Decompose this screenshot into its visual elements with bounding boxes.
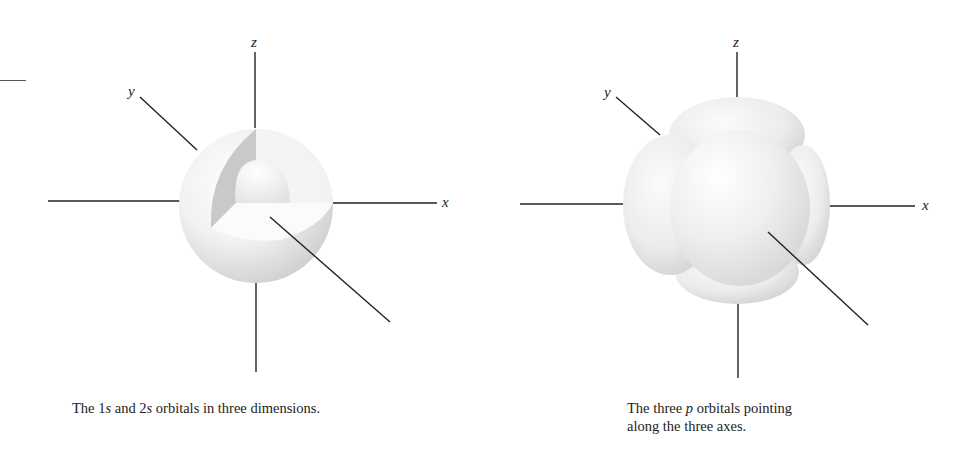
- p-orbital-figure: [520, 52, 915, 378]
- y-axis-label: y: [604, 85, 611, 100]
- z-axis-label: z: [251, 35, 257, 50]
- y-axis-label: y: [128, 84, 135, 99]
- orbital-diagrams: [0, 0, 962, 452]
- s-orbital-caption: The 1s and 2s orbitals in three dimensio…: [72, 399, 320, 417]
- p-orbital-caption: The three p orbitals pointing along the …: [627, 399, 792, 435]
- s-orbital-figure: [48, 52, 437, 372]
- x-axis-label: x: [922, 198, 929, 213]
- y-axis-line: [140, 97, 197, 150]
- py-front-lobe: [670, 130, 810, 286]
- x-axis-label: x: [442, 195, 449, 210]
- z-axis-label: z: [733, 35, 739, 50]
